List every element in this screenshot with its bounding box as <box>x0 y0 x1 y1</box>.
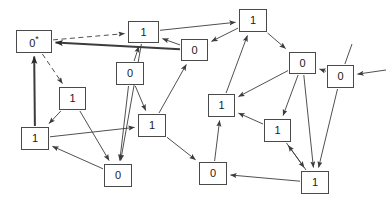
graph-node-n4[interactable]: 0 <box>289 52 316 74</box>
graph-edge-n7-to-n11 <box>49 111 61 124</box>
graph-edge-n0-to-n7 <box>42 54 62 84</box>
node-label: 0 <box>115 170 121 181</box>
node-label: 0 <box>299 58 305 69</box>
graph-edge-n9-to-n3 <box>159 65 186 114</box>
graph-edge-n3-to-n1 <box>163 39 181 45</box>
graph-edge-n5-to-n_top_right <box>345 44 352 64</box>
node-label: 0 <box>191 45 197 56</box>
graph-node-n1[interactable]: 1 <box>128 21 159 43</box>
graph-node-n3[interactable]: 0 <box>181 39 208 61</box>
graph-edge-n_right_edge-to-n5 <box>358 70 387 74</box>
node-label: 1 <box>140 27 146 38</box>
graph-node-n12[interactable]: 0 <box>104 164 132 187</box>
graph-node-n0[interactable]: 0* <box>16 30 52 53</box>
graph-node-n10[interactable]: 1 <box>264 119 291 142</box>
node-label: 0 <box>210 168 216 179</box>
graph-edge-n11-to-n9 <box>50 127 135 136</box>
graph-diagram: 0*11000011111001 <box>0 0 392 205</box>
node-label: 1 <box>218 100 224 111</box>
graph-node-n13[interactable]: 0 <box>199 162 227 185</box>
node-label: 1 <box>312 177 318 188</box>
graph-edge-n6-to-n1 <box>134 47 139 62</box>
graph-node-n11[interactable]: 1 <box>21 127 49 150</box>
node-label: 0 <box>337 71 343 82</box>
graph-edge-n4-to-n8 <box>239 71 289 97</box>
graph-edge-n3-to-n0 <box>56 43 181 50</box>
graph-edge-n7-to-n12 <box>80 111 109 161</box>
graph-edge-n5-to-n14 <box>319 89 338 168</box>
node-label: 1 <box>274 125 280 136</box>
node-label: 1 <box>149 120 155 131</box>
graph-edge-n2-to-n4 <box>268 33 286 49</box>
node-label: 1 <box>69 93 75 104</box>
graph-edge-n0-to-n1 <box>53 34 125 40</box>
graph-edge-n10-to-n8 <box>239 113 264 124</box>
graph-edge-n14-to-n10 <box>288 146 306 171</box>
graph-edge-n4-to-n10 <box>283 75 298 116</box>
graph-node-n14[interactable]: 1 <box>301 171 329 194</box>
node-label: 1 <box>32 133 38 144</box>
graph-edge-n4-to-n14 <box>304 75 314 168</box>
node-label: 1 <box>250 15 256 26</box>
graph-node-n7[interactable]: 1 <box>59 87 86 110</box>
graph-node-n6[interactable]: 0 <box>116 62 144 85</box>
graph-node-n2[interactable]: 1 <box>239 9 267 32</box>
graph-edge-n6-to-n9 <box>135 86 145 111</box>
graph-edge-n14-to-n13 <box>231 175 301 181</box>
graph-edge-n11-to-n0 <box>34 57 35 127</box>
graph-edge-n9-to-n13 <box>167 137 196 159</box>
graph-node-n9[interactable]: 1 <box>138 114 166 137</box>
node-label: 0 <box>127 68 133 79</box>
graph-edge-n2-to-n3 <box>212 28 239 41</box>
graph-node-n8[interactable]: 1 <box>208 94 235 117</box>
graph-edge-n8-to-n2 <box>226 36 247 94</box>
graph-edge-n12-to-n11 <box>53 146 104 169</box>
graph-edge-n13-to-n8 <box>215 121 220 162</box>
node-label: 0* <box>29 35 39 49</box>
graph-edge-n1-to-n2 <box>160 22 236 30</box>
node-marker-icon: * <box>35 34 39 44</box>
graph-edge-n5-to-n4 <box>320 69 327 71</box>
graph-node-n5[interactable]: 0 <box>327 65 354 88</box>
